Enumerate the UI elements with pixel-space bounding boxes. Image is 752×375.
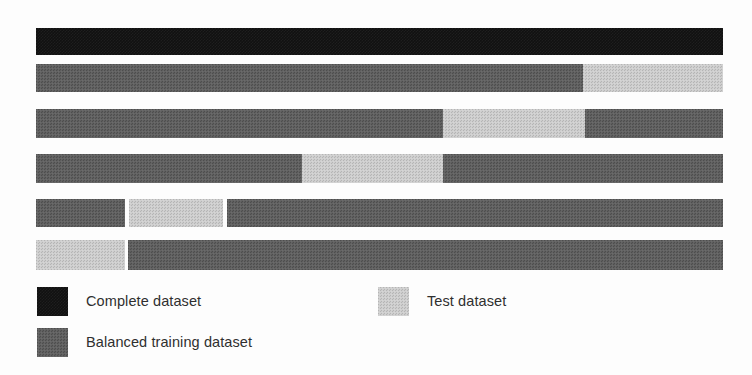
bar-segment-train [585, 109, 723, 138]
legend-item-complete-dataset: Complete dataset [37, 287, 201, 316]
fold-row [0, 199, 752, 227]
legend-swatch-balanced-training-icon [37, 328, 68, 357]
bar-segment-test [302, 154, 443, 183]
legend-item-test-dataset: Test dataset [378, 287, 506, 316]
legend-item-balanced-training-dataset: Balanced training dataset [37, 328, 252, 357]
legend-swatch-test-icon [378, 287, 409, 316]
bar-segment-test [129, 199, 223, 227]
bar-segment-train [36, 154, 302, 183]
bar-segment-complete [36, 28, 723, 55]
fold-row [0, 28, 752, 55]
fold-row [0, 154, 752, 183]
bar-segment-train [227, 199, 723, 227]
fold-row [0, 240, 752, 270]
bar-segment-test [36, 240, 125, 270]
bar-segment-test [583, 64, 723, 92]
legend-label-complete: Complete dataset [86, 294, 201, 309]
legend-label-balanced-training: Balanced training dataset [86, 335, 252, 350]
legend-label-test: Test dataset [427, 294, 506, 309]
cross-validation-fold-figure: Complete dataset Test dataset Balanced t… [0, 0, 752, 375]
bar-segment-train [36, 109, 443, 138]
bar-segment-train [443, 154, 723, 183]
bar-segment-train [128, 240, 723, 270]
fold-row [0, 109, 752, 138]
fold-row [0, 64, 752, 92]
bar-segment-train [36, 199, 125, 227]
legend-swatch-complete-icon [37, 287, 68, 316]
bar-segment-test [443, 109, 585, 138]
bar-segment-train [36, 64, 583, 92]
legend: Complete dataset Test dataset Balanced t… [0, 282, 752, 372]
